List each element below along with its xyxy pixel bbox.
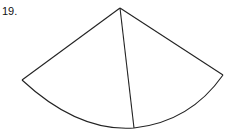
left-radius (22, 8, 120, 80)
divider-line (120, 8, 134, 128)
right-radius (120, 8, 223, 75)
sector-arc (22, 75, 223, 128)
sector-figure (0, 0, 228, 133)
